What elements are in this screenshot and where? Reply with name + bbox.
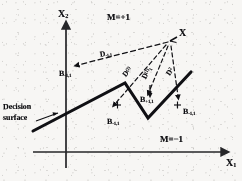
- b3-sub: -1,1: [188, 111, 195, 116]
- test-point-marker: [170, 37, 177, 43]
- region-label-lower: M=−1: [160, 135, 183, 144]
- y-axis-label: X2: [58, 9, 68, 20]
- boundary-label-b-upper-left: B-1,1: [59, 70, 71, 79]
- b1-sub: -1,1: [112, 121, 119, 126]
- vector-label-d-long-upper-left: D-1,1: [99, 49, 112, 59]
- region-label-upper: M=+1: [107, 13, 130, 22]
- cross-b-lower-right: [174, 102, 181, 109]
- test-point-label: X: [179, 28, 186, 38]
- boundary-label-b-center: B+1,1: [140, 96, 154, 105]
- axis-group: [33, 28, 222, 168]
- cross-b-lower-left: [114, 102, 121, 109]
- d0-sub: -1,1: [105, 52, 112, 58]
- decision-surface-caption-line2: surface: [3, 114, 27, 122]
- y-axis-label-sub: 2: [65, 12, 68, 19]
- x-axis-label-sub: 1: [233, 161, 236, 168]
- b0-sub: -1,1: [64, 73, 71, 78]
- decision-surface-caption-line1: Decision: [3, 103, 31, 111]
- decision-surface-figure: M=+1 M=−1 X2 X1 Decision surface X D-1,1…: [0, 0, 242, 181]
- boundary-label-b-lower-left: B-1,1: [107, 118, 119, 127]
- boundary-label-b-lower-right: B-1,1: [183, 108, 195, 117]
- vector-d-long-upper-left: [78, 42, 168, 65]
- x-axis-label: X1: [226, 158, 236, 169]
- figure-canvas: [0, 0, 242, 181]
- b2-sub: +1,1: [145, 99, 153, 104]
